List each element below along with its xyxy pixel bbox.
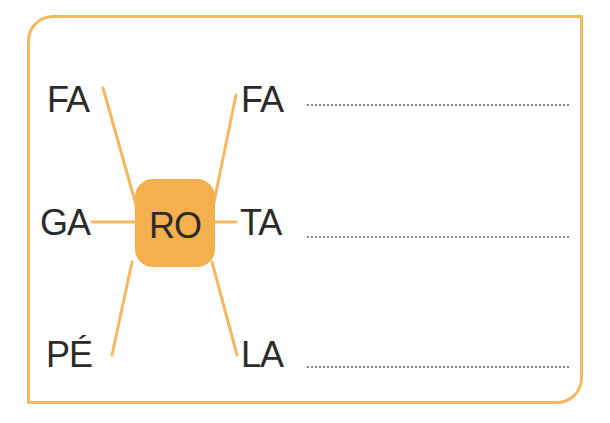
right-syllable-1: FA [241,82,283,118]
answer-line-3[interactable] [307,366,569,368]
center-syllable: RO [135,205,215,247]
answer-line-1[interactable] [307,104,569,106]
center-syllable-box: RO [135,179,215,267]
answer-line-2[interactable] [307,236,569,238]
left-syllable-1: FA [47,82,89,118]
left-syllable-2: GA [40,205,90,241]
right-syllable-3: LA [241,337,283,373]
right-syllable-2: TA [240,205,281,241]
left-syllable-3: PÉ [46,337,92,373]
